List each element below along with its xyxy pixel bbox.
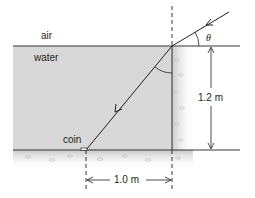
pool-wall — [172, 46, 194, 150]
water-label: water — [34, 53, 58, 63]
coin-label: coin — [63, 135, 81, 145]
incident-ray — [172, 12, 229, 46]
distance-label: 1.0 m — [114, 175, 139, 185]
pool-bottom-ground — [13, 150, 193, 170]
coin — [81, 148, 87, 151]
depth-label: 1.2 m — [198, 93, 223, 103]
air-label: air — [41, 31, 52, 41]
theta-angle-arc — [195, 32, 199, 46]
theta-label: θ — [206, 33, 211, 43]
